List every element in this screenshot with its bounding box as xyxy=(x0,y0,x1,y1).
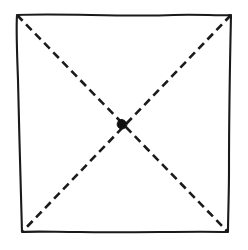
center-intersection-dot xyxy=(117,119,127,129)
square-diagonals-drawing xyxy=(0,0,248,250)
figure-canvas: Hand-drawn square with dashed diagonals … xyxy=(0,0,248,250)
